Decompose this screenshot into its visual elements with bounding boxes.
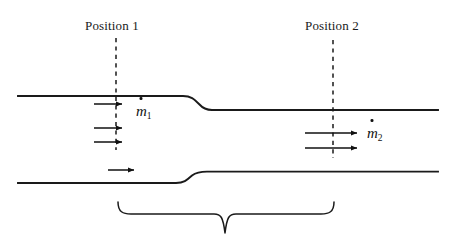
- mass-flow-rate-1-label: m 1: [136, 104, 152, 122]
- mdot-1-symbol: m: [136, 103, 147, 119]
- duct-flow-diagram: Position 1 Position 2 m 1 m 2: [0, 0, 460, 246]
- position-2-label: Position 2: [305, 18, 359, 34]
- mdot-2-glyph: m: [367, 126, 378, 141]
- overdot-icon: [371, 119, 374, 122]
- mdot-2-symbol: m: [367, 125, 378, 141]
- duct-bottom-wall: [18, 172, 438, 183]
- mdot-1-subscript: 1: [147, 111, 152, 121]
- mdot-2-subscript: 2: [378, 133, 383, 143]
- mass-flow-rate-2-label: m 2: [367, 126, 383, 144]
- diagram-canvas: [0, 0, 460, 246]
- position-1-label: Position 1: [85, 18, 139, 34]
- duct-top-wall: [18, 96, 438, 110]
- mdot-1-glyph: m: [136, 104, 147, 119]
- underbrace: [118, 202, 334, 233]
- overdot-icon: [140, 97, 143, 100]
